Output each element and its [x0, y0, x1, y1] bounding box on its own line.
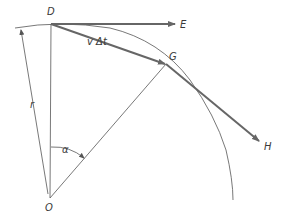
- label-O: O: [45, 202, 53, 213]
- label-G: G: [169, 51, 177, 62]
- circular-motion-diagram: D E G H O r α v Δt: [0, 0, 292, 218]
- r-dimension-arrow: [21, 30, 48, 194]
- displacement-vector-DG: [51, 24, 165, 64]
- label-E: E: [180, 19, 187, 30]
- label-D: D: [47, 6, 55, 17]
- velocity-vector-GH: [166, 64, 259, 141]
- radius-line-OD: [50, 24, 51, 198]
- label-v-delta-t: v Δt: [87, 36, 108, 47]
- radius-line-OG: [50, 64, 166, 198]
- label-alpha: α: [62, 144, 69, 155]
- label-H: H: [264, 141, 272, 152]
